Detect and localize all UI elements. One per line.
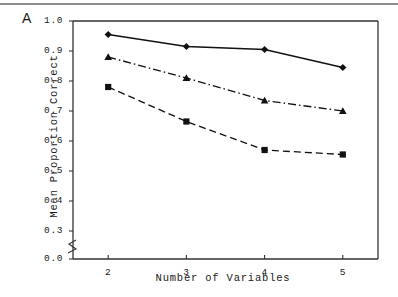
data-point-marker-square [183, 118, 189, 124]
series-line-1 [108, 35, 343, 68]
series-line-3 [108, 87, 343, 155]
data-point-marker-diamond [105, 31, 112, 38]
data-point-marker-diamond [261, 46, 268, 53]
figure-panel-a: A Mean Proportion Correct Number of Vari… [0, 0, 398, 297]
data-point-marker-diamond [339, 64, 346, 71]
data-point-marker-square [262, 147, 268, 153]
data-point-marker-triangle [104, 53, 112, 60]
plot-canvas [0, 0, 398, 297]
data-point-marker-square [105, 84, 111, 90]
data-point-marker-square [340, 151, 346, 157]
y-axis-break-zigzag [68, 240, 76, 253]
data-point-marker-diamond [183, 43, 190, 50]
